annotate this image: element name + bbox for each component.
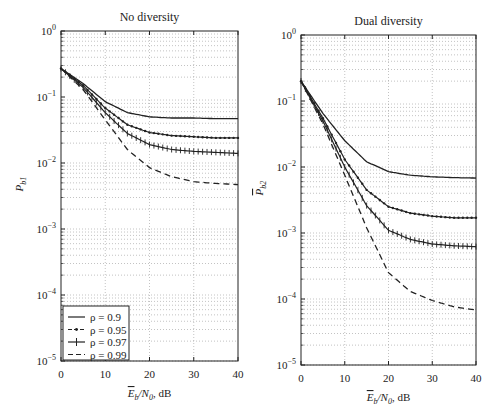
legend-item: ρ = 0.97 <box>90 336 127 348</box>
series-line <box>61 69 238 154</box>
x-axis-label: Eb/N0, dB <box>366 391 410 406</box>
y-tick-label: 10−1 <box>276 93 296 107</box>
x-tick-label: 30 <box>188 368 200 380</box>
chart-dual-diversity: 01020304010010−110−210−310−410−5Dual div… <box>253 14 482 406</box>
y-tick-label: 10−5 <box>276 357 296 371</box>
chart-title: No diversity <box>120 10 180 24</box>
x-tick-label: 20 <box>383 372 395 384</box>
y-tick-label: 10−2 <box>276 159 296 173</box>
y-tick-label: 10−4 <box>36 287 56 301</box>
legend-item: ρ = 0.99 <box>90 349 127 361</box>
x-axis-ticks: 010203040 <box>298 35 482 384</box>
x-tick-label: 10 <box>100 368 112 380</box>
y-tick-label: 100 <box>41 23 56 37</box>
chart-title: Dual diversity <box>354 14 422 28</box>
x-tick-label: 20 <box>144 368 156 380</box>
y-tick-label: 100 <box>281 27 296 41</box>
x-tick-label: 10 <box>339 372 351 384</box>
grid <box>301 35 476 365</box>
x-tick-label: 0 <box>58 368 64 380</box>
figure: 01020304010010−110−210−310−410−5No diver… <box>0 0 497 414</box>
x-axis-label: Eb/N0, dB <box>127 387 171 402</box>
legend-item: ρ = 0.95 <box>90 324 127 336</box>
x-tick-label: 30 <box>427 372 439 384</box>
y-tick-label: 10−3 <box>36 221 56 235</box>
x-tick-label: 0 <box>298 372 304 384</box>
chart-no-diversity: 01020304010010−110−210−310−410−5No diver… <box>13 10 244 402</box>
legend: ρ = 0.9ρ = 0.95ρ = 0.97ρ = 0.99 <box>63 306 129 361</box>
y-tick-label: 10−4 <box>276 291 296 305</box>
y-axis-label: Pb2 <box>253 181 268 197</box>
y-tick-label: 10−2 <box>36 155 56 169</box>
y-axis-label: Pb1 <box>13 177 28 193</box>
x-tick-label: 40 <box>471 372 483 384</box>
y-tick-label: 10−5 <box>36 353 56 367</box>
y-tick-label: 10−1 <box>36 89 56 103</box>
y-tick-label: 10−3 <box>276 225 296 239</box>
legend-item: ρ = 0.9 <box>90 311 121 323</box>
x-tick-label: 40 <box>233 368 245 380</box>
